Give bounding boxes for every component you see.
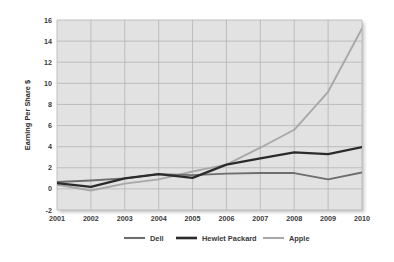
y-tick-label: 6 <box>48 121 52 130</box>
x-tick-label: 2002 <box>83 214 99 223</box>
x-tick-label: 2007 <box>252 214 268 223</box>
legend-label-hewlet-packard: Hewlet Packard <box>202 234 257 243</box>
y-tick-label: 14 <box>44 37 52 46</box>
legend-label-dell: Dell <box>150 234 164 243</box>
legend-label-apple: Apple <box>289 234 310 243</box>
x-tick-label: 2006 <box>218 214 234 223</box>
x-tick-label: 2004 <box>151 214 167 223</box>
y-tick-label: 2 <box>48 163 52 172</box>
x-tick-label: 2003 <box>117 214 133 223</box>
y-axis-title: Earning Per Share $ <box>23 80 32 150</box>
x-tick-label: 2005 <box>185 214 201 223</box>
x-tick-label: 2008 <box>286 214 302 223</box>
y-tick-label: 0 <box>48 184 52 193</box>
y-tick-label: 4 <box>48 142 52 151</box>
plot-area-background <box>57 20 362 210</box>
x-tick-label: 2001 <box>49 214 65 223</box>
x-tick-label: 2009 <box>320 214 336 223</box>
y-tick-label: 8 <box>48 100 52 109</box>
y-tick-label: 10 <box>44 79 52 88</box>
y-tick-label: 12 <box>44 58 52 67</box>
y-tick-label: 16 <box>44 16 52 25</box>
x-tick-label: 2010 <box>354 214 370 223</box>
line-chart: 16 14 12 10 8 6 4 2 0 -2 2001 2002 2003 … <box>0 0 394 262</box>
chart-figure: 16 14 12 10 8 6 4 2 0 -2 2001 2002 2003 … <box>0 0 394 262</box>
